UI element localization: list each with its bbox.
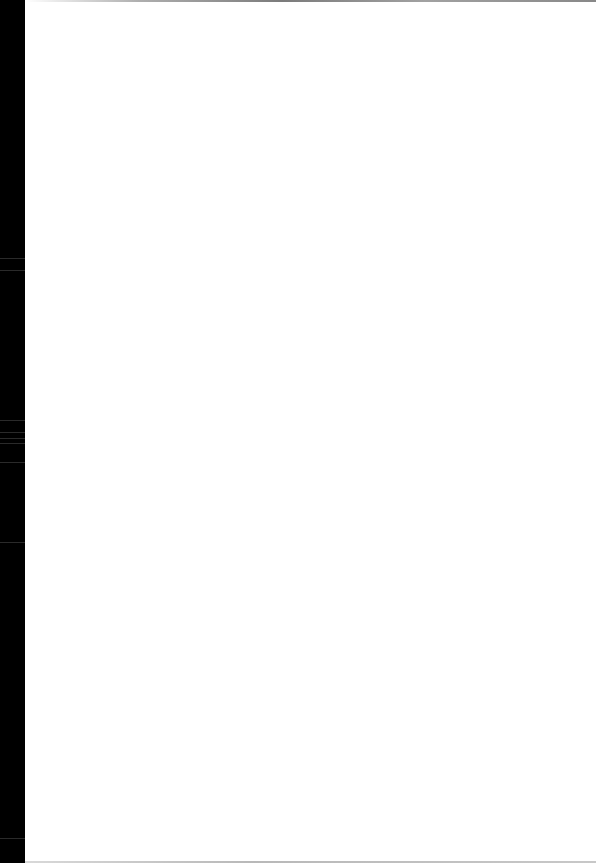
scan-artifact	[0, 258, 25, 259]
scan-artifact	[0, 432, 25, 433]
scan-border-left	[0, 0, 25, 863]
scan-artifact	[0, 438, 25, 439]
scan-artifact	[0, 462, 25, 463]
scan-artifact	[0, 420, 25, 421]
scan-artifact	[0, 542, 25, 543]
scan-artifact	[0, 838, 25, 839]
scan-artifact	[0, 443, 25, 444]
scanned-page	[0, 0, 596, 863]
blank-page	[25, 2, 596, 861]
scan-artifact	[0, 270, 25, 271]
